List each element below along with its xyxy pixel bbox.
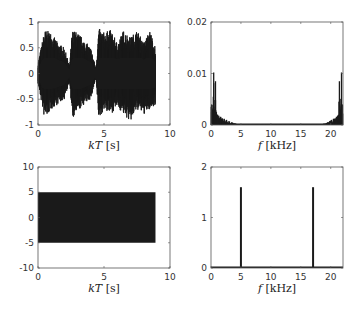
- x-tick-label: 10: [265, 129, 277, 139]
- x-tick-label: 20: [325, 272, 337, 282]
- y-tick-label: 10: [23, 162, 35, 172]
- spectrum-bottom-axes: 05101520210f [kHz]: [201, 162, 343, 295]
- x-tick-label: 5: [238, 272, 244, 282]
- x-tick-label: 5: [101, 129, 107, 139]
- x-tick-label: 20: [325, 129, 337, 139]
- spectrum-top-axes: 051015200.020.010f [kHz]: [187, 17, 343, 152]
- spectrum-top-data: [211, 72, 343, 125]
- y-tick-label: 1: [28, 17, 34, 27]
- y-tick-label: -1: [25, 120, 34, 130]
- time-signal-bottom-axes: 05101050-5-10kT [s]: [19, 162, 176, 295]
- x-tick-label: 10: [164, 129, 176, 139]
- x-tick-label: 10: [265, 272, 277, 282]
- y-tick-label: 0: [28, 213, 34, 223]
- y-tick-label: -0.5: [16, 94, 34, 104]
- spectrum-bottom-data: [211, 187, 343, 268]
- y-tick-label: 0: [201, 120, 207, 130]
- x-tick-label: 15: [295, 129, 306, 139]
- y-tick-label: 0: [28, 69, 34, 79]
- time-signal-bottom-data: [38, 192, 155, 243]
- y-tick-label: 2: [201, 162, 207, 172]
- y-tick-label: 0.01: [187, 69, 207, 79]
- time-signal-top-data: [38, 29, 155, 119]
- x-tick-label: 10: [164, 272, 176, 282]
- x-tick-label: 0: [35, 129, 41, 139]
- y-tick-label: 0: [201, 263, 207, 273]
- x-axis-label: f [kHz]: [257, 139, 296, 152]
- spectrum-bottom-frame: [211, 167, 343, 268]
- time-signal-top-axes: 051010.50-0.5-1kT [s]: [16, 17, 176, 152]
- x-tick-label: 0: [208, 129, 214, 139]
- spectrum-top-frame: [211, 22, 343, 125]
- y-tick-label: -5: [25, 238, 34, 248]
- y-tick-label: -10: [19, 263, 34, 273]
- x-tick-label: 5: [101, 272, 107, 282]
- y-tick-label: 5: [28, 187, 34, 197]
- x-tick-label: 15: [295, 272, 306, 282]
- x-axis-label: kT [s]: [88, 139, 120, 152]
- x-tick-label: 0: [35, 272, 41, 282]
- y-tick-label: 1: [201, 213, 207, 223]
- x-tick-label: 5: [238, 129, 244, 139]
- x-tick-label: 0: [208, 272, 214, 282]
- y-tick-label: 0.02: [187, 17, 207, 27]
- figure: 051010.50-0.5-1kT [s]051015200.020.010f …: [0, 0, 362, 313]
- x-axis-label: kT [s]: [88, 282, 120, 295]
- figure-canvas: 051010.50-0.5-1kT [s]051015200.020.010f …: [0, 0, 362, 313]
- y-tick-label: 0.5: [20, 43, 34, 53]
- x-axis-label: f [kHz]: [257, 282, 296, 295]
